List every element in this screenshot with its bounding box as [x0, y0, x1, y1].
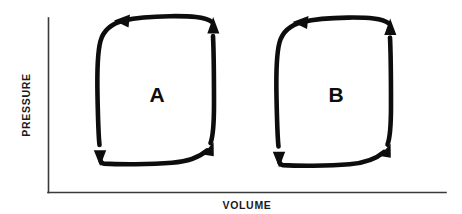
loop-b-left-segment: [276, 22, 302, 147]
loop-a-bottom-right-arrow-icon: [203, 142, 214, 156]
loop-b-group: B: [273, 16, 397, 168]
loop-a-bottom-segment: [100, 151, 207, 165]
loop-b-right-segment: [388, 38, 392, 145]
loop-a-left-segment: [97, 21, 124, 146]
x-axis-label: VOLUME: [222, 199, 271, 211]
loop-a-top-segment: [124, 16, 212, 22]
loop-a-group: A: [94, 15, 220, 167]
axes-group: [48, 18, 446, 193]
loop-a-right-segment: [211, 36, 215, 143]
loop-b-bottom-right-arrow-icon: [380, 144, 391, 158]
y-axis-label: PRESSURE: [20, 73, 32, 136]
loop-b-label: B: [328, 83, 343, 106]
figure-canvas: PRESSURE VOLUME A: [0, 0, 462, 214]
loop-a-label: A: [149, 83, 164, 106]
pv-loop-figure: PRESSURE VOLUME A: [0, 0, 462, 214]
loop-b-bottom-segment: [279, 152, 384, 166]
loop-b-top-segment: [303, 18, 390, 24]
